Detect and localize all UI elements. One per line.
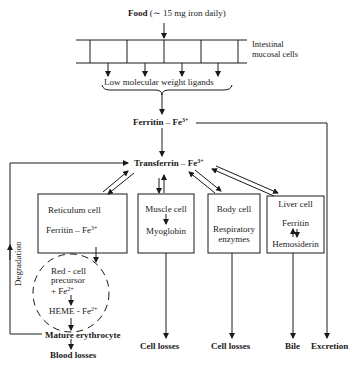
ferritin-dash: – [166,117,171,127]
precursor-fe-label: + Fe [51,286,67,296]
transferrin-ion: Fe [188,158,198,168]
food-label: Food [128,8,148,18]
heme-charge: 2+ [91,306,97,312]
intestinal-label-2: mucosal cells [252,50,298,59]
ferritin-node: Ferritin – Fe3+ [133,118,188,127]
blood-losses: Blood losses [50,351,96,360]
body-respiratory: Respiratory [206,225,262,234]
ligands-label: Low molecular weight ligands [104,78,214,87]
reticulum-ferritin: Ferritin – Fe [46,225,91,235]
muscle-myoglobin: Myoglobin [138,227,194,236]
liver-hemosiderin: Hemosiderin [265,240,326,249]
precursor-fe: + Fe2+ [51,287,74,296]
transferrin-label: Transferrin [134,158,179,168]
body-title: Body cell [208,205,260,214]
food-label-group: Food (∼ 15 mg iron daily) [128,9,226,18]
body-enzymes: enzymes [208,235,260,244]
reticulum-title: Reticulum cell [48,206,101,215]
degradation-label: Degradation [14,242,23,286]
heme-node: HEME - Fe2+ [49,307,97,316]
intestinal-label-1: Intestinal [252,40,284,49]
precursor-fe-charge: 2+ [67,286,73,292]
liver-ferritin: Ferritin [267,219,324,228]
excretion-label: Excretion [311,342,348,351]
ferritin-ion: Fe [173,117,183,127]
transferrin-charge: 3+ [197,158,203,164]
transferrin-dash: – [181,158,186,168]
mature-erythrocyte: Mature erythrocyte [45,331,120,340]
ferritin-charge: 3+ [182,117,188,123]
heme-label: HEME - Fe [49,306,91,316]
cell-losses-body: Cell losses [211,342,250,351]
muscle-title: Muscle cell [138,205,194,214]
cell-losses-muscle: Cell losses [140,342,179,351]
transferrin-node: Transferrin – Fe3+ [134,159,204,168]
reticulum-charge: 3+ [91,225,97,231]
food-note: (∼ 15 mg iron daily) [150,8,226,18]
bile-label: Bile [285,342,300,351]
liver-title: Liver cell [267,200,324,209]
reticulum-line2: Ferritin – Fe3+ [46,226,97,235]
ferritin-label: Ferritin [133,117,164,127]
precursor-line2: precursor [51,276,85,285]
